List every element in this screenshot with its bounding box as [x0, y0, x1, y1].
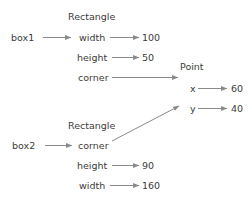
attribute-key-rect2-width: width [79, 180, 105, 191]
attribute-key-point-y: y [190, 103, 196, 114]
attribute-value-rect1-width: 100 [142, 32, 160, 43]
arrow-rect2-corner-to-point [112, 106, 179, 141]
attribute-key-point-x: x [190, 83, 196, 94]
attribute-value-point-y: 40 [231, 103, 243, 114]
attribute-value-rect1-height: 50 [142, 52, 154, 63]
attribute-value-rect2-width: 160 [142, 180, 160, 191]
attribute-value-rect2-height: 90 [142, 160, 154, 171]
object-type-label-rect1: Rectangle [68, 11, 115, 22]
attribute-key-rect1-corner: corner [78, 72, 109, 83]
object-type-label-point: Point [180, 61, 204, 72]
variable-label-box1: box1 [11, 32, 34, 43]
object-state-diagram: box1 Rectangle width 100 height 50 corne… [0, 0, 252, 202]
variable-label-box2: box2 [12, 140, 35, 151]
connector-layer [0, 0, 252, 202]
attribute-key-rect2-height: height [77, 160, 107, 171]
attribute-key-rect2-corner: corner [78, 140, 109, 151]
attribute-key-rect1-height: height [77, 52, 107, 63]
attribute-key-rect1-width: width [79, 32, 105, 43]
object-type-label-rect2: Rectangle [68, 120, 115, 131]
attribute-value-point-x: 60 [231, 83, 243, 94]
